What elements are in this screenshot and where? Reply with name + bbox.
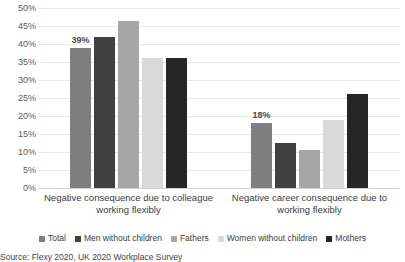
bar-fill [347, 94, 368, 188]
y-axis-tick-label: 35% [2, 58, 36, 67]
y-axis-tick-label: 0% [2, 184, 36, 193]
y-axis-tick-label: 10% [2, 148, 36, 157]
bar: 18% [251, 123, 272, 188]
bar-value-label: 18% [252, 111, 270, 120]
x-axis-category-label: Negative consequence due to colleague wo… [38, 192, 219, 216]
bar [323, 120, 344, 188]
y-axis-tick-label: 15% [2, 130, 36, 139]
bar-fill [323, 120, 344, 188]
bar-group: 18% [219, 8, 400, 188]
y-axis: 50%45%40%35%30%25%20%15%10%5%0% [0, 8, 36, 188]
legend-label: Fathers [180, 234, 209, 243]
bar [275, 143, 296, 188]
y-axis-tick-label: 30% [2, 76, 36, 85]
legend-item[interactable]: Men without children [75, 234, 162, 243]
bar-fill [251, 123, 272, 188]
legend-label: Total [48, 234, 66, 243]
bar-fill [142, 58, 163, 188]
legend-item[interactable]: Mothers [326, 234, 366, 243]
y-axis-tick-label: 5% [2, 166, 36, 175]
legend-item[interactable]: Total [39, 234, 66, 243]
source-footnote: Source: Flexy 2020, UK 2020 Workplace Su… [0, 252, 405, 262]
bar [142, 58, 163, 188]
gridline [38, 188, 400, 189]
bar: 39% [70, 48, 91, 188]
legend-swatch [326, 236, 332, 242]
legend-label: Mothers [335, 234, 366, 243]
bar-fill [275, 143, 296, 188]
bar-chart: 50%45%40%35%30%25%20%15%10%5%0% 39%18% N… [0, 0, 405, 262]
bar [299, 150, 320, 188]
legend-swatch [75, 236, 81, 242]
bar [118, 21, 139, 188]
legend-label: Women without children [227, 234, 318, 243]
chart-legend: TotalMen without childrenFathersWomen wi… [0, 234, 405, 243]
bar-fill [94, 37, 115, 188]
y-axis-tick-label: 45% [2, 22, 36, 31]
legend-label: Men without children [84, 234, 162, 243]
y-axis-tick-label: 40% [2, 40, 36, 49]
y-axis-tick-label: 20% [2, 112, 36, 121]
y-axis-tick-label: 25% [2, 94, 36, 103]
legend-item[interactable]: Fathers [171, 234, 209, 243]
bar-fill [166, 58, 187, 188]
bar-value-label: 39% [71, 36, 89, 45]
legend-swatch [39, 236, 45, 242]
legend-swatch [218, 236, 224, 242]
bar-fill [70, 48, 91, 188]
bar-groups: 39%18% [38, 8, 400, 188]
y-axis-tick-label: 50% [2, 4, 36, 13]
x-axis-category-label: Negative career consequence due to worki… [219, 192, 400, 216]
bar-group: 39% [38, 8, 219, 188]
x-axis-category-labels: Negative consequence due to colleague wo… [38, 192, 400, 216]
bar-fill [299, 150, 320, 188]
bar [166, 58, 187, 188]
bar [347, 94, 368, 188]
legend-swatch [171, 236, 177, 242]
legend-item[interactable]: Women without children [218, 234, 318, 243]
bar [94, 37, 115, 188]
bar-fill [118, 21, 139, 188]
